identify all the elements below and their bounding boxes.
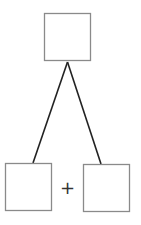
edge-top-to-bottom-right xyxy=(68,62,102,164)
plus-operator: + xyxy=(60,177,75,198)
edge-top-to-bottom-left xyxy=(33,62,68,163)
top-box xyxy=(45,14,91,61)
decomposition-diagram: + xyxy=(0,0,141,225)
bottom-left-box xyxy=(6,164,52,211)
bottom-right-box xyxy=(84,165,130,212)
